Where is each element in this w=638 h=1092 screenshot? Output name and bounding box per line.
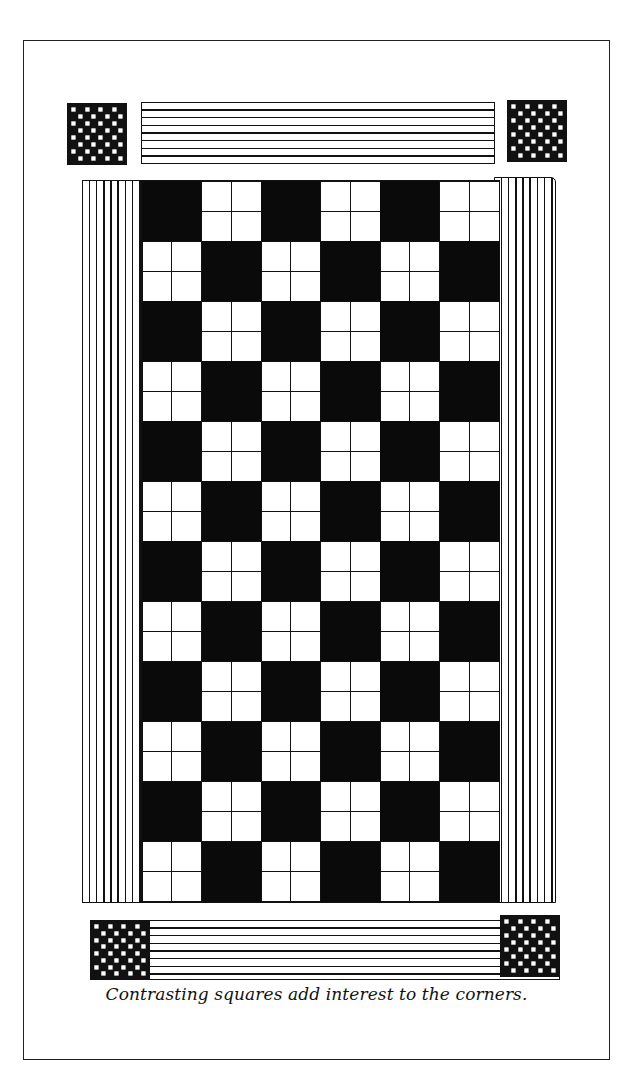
sub-square bbox=[290, 751, 321, 782]
checker-cell bbox=[119, 128, 123, 132]
sub-square bbox=[320, 211, 351, 242]
checker-cell bbox=[552, 940, 556, 944]
black-tile bbox=[202, 842, 262, 902]
checker-cell bbox=[135, 924, 139, 928]
checker-cell bbox=[503, 953, 510, 960]
checker-cell bbox=[119, 114, 123, 118]
sub-square bbox=[469, 181, 500, 212]
checker-cell bbox=[101, 972, 105, 976]
sub-square bbox=[380, 511, 411, 542]
sub-square bbox=[469, 661, 500, 692]
checker-cell bbox=[518, 947, 522, 951]
checker-cell bbox=[93, 943, 100, 950]
checker-cell bbox=[525, 146, 529, 150]
sub-square bbox=[231, 421, 262, 452]
checker-cell bbox=[115, 972, 119, 976]
black-tile bbox=[202, 241, 262, 301]
checker-cell bbox=[559, 139, 563, 143]
checker-cell bbox=[90, 106, 97, 113]
white-quartered-tile bbox=[440, 782, 500, 842]
sub-square bbox=[142, 841, 173, 872]
bottom-stripe-band bbox=[90, 920, 560, 980]
checker-cell bbox=[112, 121, 116, 125]
sub-square bbox=[409, 841, 440, 872]
checker-cell bbox=[71, 107, 75, 111]
sub-square bbox=[201, 541, 232, 572]
checker-cell bbox=[135, 965, 139, 969]
checker-cell bbox=[100, 950, 107, 957]
checker-cell bbox=[517, 967, 524, 974]
white-quartered-tile bbox=[321, 782, 381, 842]
checker-cell bbox=[559, 153, 563, 157]
black-tile bbox=[261, 662, 321, 722]
checker-cell bbox=[94, 951, 98, 955]
sub-square bbox=[171, 751, 202, 782]
black-tile bbox=[380, 421, 440, 481]
sub-square bbox=[142, 871, 173, 902]
sub-square bbox=[290, 361, 321, 392]
checker-cell bbox=[523, 918, 530, 925]
black-tile bbox=[202, 361, 262, 421]
sub-square bbox=[231, 781, 262, 812]
sub-square bbox=[409, 241, 440, 272]
checker-cell bbox=[113, 923, 120, 930]
black-tile bbox=[380, 782, 440, 842]
checker-cell bbox=[551, 152, 558, 159]
checker-cell bbox=[559, 111, 563, 115]
checker-cell bbox=[510, 918, 517, 925]
checker-cell bbox=[97, 127, 104, 134]
checker-cell bbox=[518, 961, 522, 965]
checker-cell bbox=[537, 124, 544, 131]
checker-cell bbox=[510, 932, 517, 939]
checker-cell bbox=[545, 111, 549, 115]
checker-cell bbox=[93, 957, 100, 964]
sub-square bbox=[290, 241, 321, 272]
checker-cell bbox=[104, 148, 111, 155]
black-tile bbox=[202, 602, 262, 662]
sub-square bbox=[439, 571, 470, 602]
sub-square bbox=[320, 811, 351, 842]
black-tile bbox=[261, 541, 321, 601]
sub-square bbox=[320, 451, 351, 482]
sub-square bbox=[171, 841, 202, 872]
sub-square bbox=[171, 721, 202, 752]
checker-cell bbox=[518, 111, 522, 115]
checker-cell bbox=[105, 142, 109, 146]
sub-square bbox=[142, 631, 173, 662]
white-quartered-tile bbox=[380, 602, 440, 662]
checker-cell bbox=[511, 132, 515, 136]
checker-cell bbox=[545, 961, 549, 965]
checker-cell bbox=[94, 924, 98, 928]
black-tile bbox=[261, 181, 321, 241]
checker-cell bbox=[517, 117, 524, 124]
corner-checker-square-bottom-left bbox=[90, 920, 150, 980]
checker-cell bbox=[70, 141, 77, 148]
black-tile bbox=[440, 722, 500, 782]
sub-square bbox=[231, 181, 262, 212]
checker-cell bbox=[518, 933, 522, 937]
sub-square bbox=[409, 511, 440, 542]
checker-cell bbox=[523, 946, 530, 953]
checker-cell bbox=[538, 926, 542, 930]
sub-square bbox=[380, 391, 411, 422]
sub-square bbox=[409, 751, 440, 782]
sub-square bbox=[201, 781, 232, 812]
sub-square bbox=[469, 781, 500, 812]
checker-cell bbox=[100, 964, 107, 971]
sub-square bbox=[142, 721, 173, 752]
white-quartered-tile bbox=[142, 241, 202, 301]
checker-cell bbox=[77, 120, 84, 127]
checker-cell bbox=[532, 111, 536, 115]
sub-square bbox=[380, 271, 411, 302]
checker-cell bbox=[537, 932, 544, 939]
checker-cell bbox=[511, 118, 515, 122]
sub-square bbox=[142, 391, 173, 422]
checker-cell bbox=[545, 933, 549, 937]
sub-square bbox=[380, 841, 411, 872]
sub-square bbox=[290, 841, 321, 872]
checker-cell bbox=[85, 107, 89, 111]
checker-cell bbox=[544, 967, 551, 974]
black-tile bbox=[321, 241, 381, 301]
checker-cell bbox=[517, 131, 524, 138]
white-quartered-tile bbox=[321, 301, 381, 361]
